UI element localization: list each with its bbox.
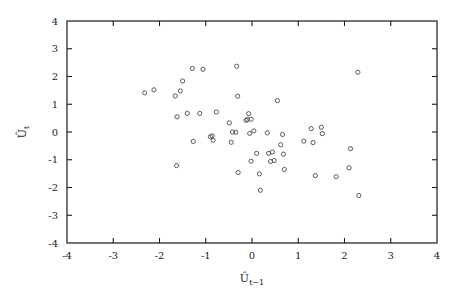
y-tick-label: 4	[52, 16, 58, 27]
x-tick-label: -3	[108, 250, 118, 261]
y-tick-label: 0	[52, 127, 58, 138]
y-tick-label: 3	[52, 43, 58, 54]
chart-canvas: -4-3-2-101234 -4-3-2-101234 Ût−1 Ût	[0, 0, 461, 294]
x-tick-label: 1	[295, 250, 301, 261]
x-tick-label: 2	[341, 250, 347, 261]
y-tick-label: 2	[52, 71, 58, 82]
x-tick-label: -4	[62, 250, 72, 261]
x-tick-label: 0	[249, 250, 255, 261]
y-tick-label: 1	[52, 99, 58, 110]
y-tick-label: -1	[48, 154, 58, 165]
x-tick-label: -1	[201, 250, 211, 261]
x-tick-label: 4	[434, 250, 440, 261]
y-tick-label: -3	[48, 210, 58, 221]
y-tick-label: -2	[48, 182, 58, 193]
x-tick-label: -2	[155, 250, 165, 261]
x-tick-label: 3	[388, 250, 394, 261]
scatter-plot-figure: -4-3-2-101234 -4-3-2-101234 Ût−1 Ût	[0, 0, 461, 294]
y-tick-label: -4	[48, 238, 58, 249]
